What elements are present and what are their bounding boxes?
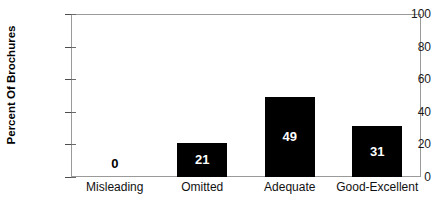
y-axis-tick-label: 40 — [369, 106, 431, 118]
bar: 21 — [177, 143, 227, 177]
bar-chart: Percent Of Brochures 020406080100 021493… — [0, 0, 431, 210]
y-axis-tick-inner — [71, 112, 76, 113]
bar: 31 — [352, 126, 402, 177]
y-axis-tick-inner — [71, 144, 76, 145]
y-axis-title: Percent Of Brochures — [2, 0, 20, 190]
bar-value-label: 31 — [352, 145, 402, 158]
y-axis-tick-inner — [71, 177, 76, 178]
bar-value-label: 0 — [90, 157, 140, 170]
bar: 49 — [265, 97, 315, 177]
y-axis-tick-inner — [71, 79, 76, 80]
x-axis-category-label: Omitted — [159, 180, 247, 194]
y-axis-tick-label: 80 — [369, 41, 431, 53]
x-axis-category-label: Adequate — [246, 180, 334, 194]
y-axis-tick-label: 60 — [369, 73, 431, 85]
y-axis-tick-label: 100 — [369, 8, 431, 20]
y-axis-tick-inner — [71, 47, 76, 48]
x-axis-category-label: Good-Excellent — [334, 180, 422, 194]
x-axis-category-label: Misleading — [71, 180, 159, 194]
bar-value-label: 21 — [177, 153, 227, 166]
bar-value-label: 49 — [265, 130, 315, 143]
y-axis-tick-inner — [71, 14, 76, 15]
